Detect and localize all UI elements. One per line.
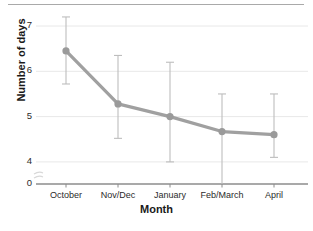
- gridlines-group: [36, 26, 308, 162]
- x-axis-title: Month: [0, 203, 313, 215]
- axis-break-marker: [34, 172, 43, 178]
- y-axis-title-wrap: Number of days: [11, 5, 27, 115]
- chart-figure: 04567 OctoberNov/DecJanuaryFeb/MarchApri…: [0, 0, 313, 231]
- y-tick-label: 0: [12, 177, 32, 188]
- error-bars-group: [62, 17, 278, 184]
- x-tick-label: April: [240, 190, 308, 200]
- y-tick-label: 4: [12, 155, 32, 166]
- y-axis-title: Number of days: [15, 18, 27, 101]
